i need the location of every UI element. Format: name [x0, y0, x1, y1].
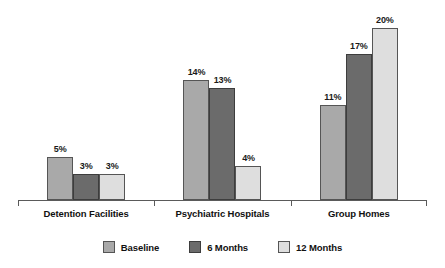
bar-6-months-detention-facilities[interactable] — [73, 174, 99, 200]
bar-group-detention-facilities: 5% 3% 3% — [18, 0, 154, 200]
bar-value-label: 13% — [214, 76, 231, 85]
bar-group-group-homes: 11% 17% 20% — [291, 0, 427, 200]
bar-value-label: 11% — [324, 93, 341, 102]
bar-wrapper: 3% — [73, 0, 99, 200]
x-axis-line — [18, 200, 427, 201]
bar-6-months-group-homes[interactable] — [346, 54, 372, 200]
bar-value-label: 5% — [54, 145, 67, 154]
category-labels: Detention Facilities Psychiatric Hospita… — [18, 206, 427, 222]
bar-wrapper: 14% — [183, 0, 209, 200]
bar-baseline-detention-facilities[interactable] — [47, 157, 73, 200]
category-label-group-homes: Group Homes — [291, 206, 427, 222]
legend-item-baseline[interactable]: Baseline — [103, 241, 159, 253]
bar-wrapper: 3% — [99, 0, 125, 200]
legend-label: Baseline — [121, 242, 159, 253]
bar-baseline-psychiatric-hospitals[interactable] — [183, 80, 209, 200]
bar-value-label: 17% — [350, 42, 367, 51]
bar-baseline-group-homes[interactable] — [320, 105, 346, 200]
bar-wrapper: 13% — [209, 0, 235, 200]
chart-legend: Baseline 6 Months 12 Months — [0, 238, 445, 256]
bar-value-label: 14% — [188, 68, 205, 77]
legend-swatch-icon — [278, 241, 290, 253]
bar-wrapper: 17% — [346, 0, 372, 200]
plot-area: 5% 3% 3% 14% 13% — [0, 0, 445, 226]
category-label-psychiatric-hospitals: Psychiatric Hospitals — [154, 206, 290, 222]
bar-6-months-psychiatric-hospitals[interactable] — [209, 88, 235, 200]
bar-wrapper: 5% — [47, 0, 73, 200]
grouped-bar-chart: 5% 3% 3% 14% 13% — [0, 0, 445, 268]
bar-12-months-group-homes[interactable] — [372, 28, 398, 200]
bar-value-label: 20% — [376, 16, 393, 25]
bar-wrapper: 11% — [320, 0, 346, 200]
bar-12-months-psychiatric-hospitals[interactable] — [235, 166, 261, 200]
bar-12-months-detention-facilities[interactable] — [99, 174, 125, 200]
bar-group-psychiatric-hospitals: 14% 13% 4% — [154, 0, 290, 200]
bar-value-label: 4% — [242, 154, 255, 163]
bar-wrapper: 20% — [372, 0, 398, 200]
bar-value-label: 3% — [106, 162, 119, 171]
bar-value-label: 3% — [80, 162, 93, 171]
category-label-detention-facilities: Detention Facilities — [18, 206, 154, 222]
bar-groups: 5% 3% 3% 14% 13% — [18, 0, 427, 200]
bar-wrapper: 4% — [235, 0, 261, 200]
legend-label: 12 Months — [296, 242, 342, 253]
legend-label: 6 Months — [207, 242, 248, 253]
legend-item-12-months[interactable]: 12 Months — [278, 241, 342, 253]
legend-swatch-icon — [189, 241, 201, 253]
legend-swatch-icon — [103, 241, 115, 253]
legend-item-6-months[interactable]: 6 Months — [189, 241, 248, 253]
